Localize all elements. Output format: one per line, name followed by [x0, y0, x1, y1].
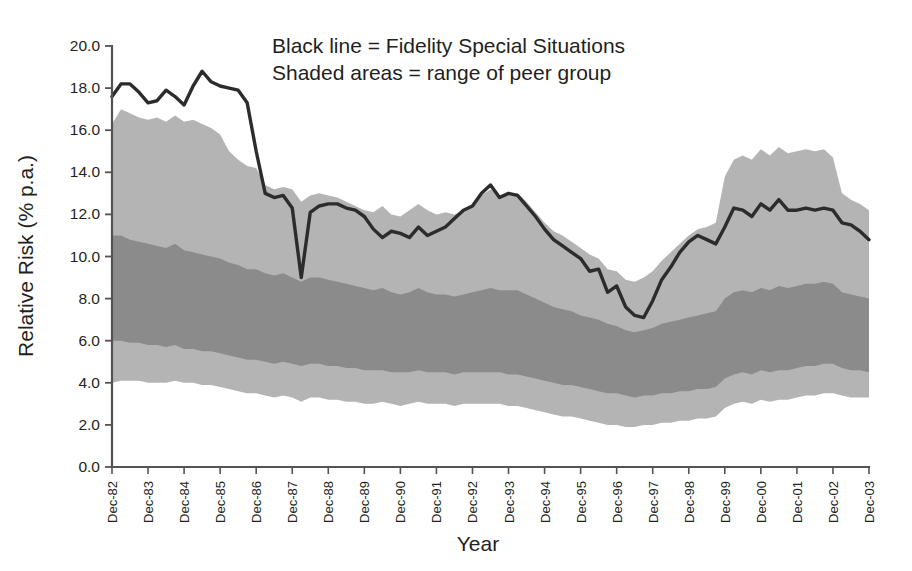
chart-legend: Black line = Fidelity Special Situations… — [272, 34, 625, 84]
y-tick-label: 2.0 — [78, 416, 100, 433]
x-tick-label: Dec-03 — [862, 481, 877, 523]
y-tick-label: 10.0 — [70, 248, 101, 265]
x-tick-label: Dec-91 — [429, 481, 444, 523]
x-tick-label: Dec-94 — [538, 481, 553, 523]
y-tick-label: 0.0 — [78, 458, 100, 475]
x-tick-label: Dec-88 — [321, 481, 336, 523]
x-tick-label: Dec-95 — [574, 481, 589, 523]
relative-risk-chart: 0.02.04.06.08.010.012.014.016.018.020.0 … — [0, 0, 912, 571]
x-tick-label: Dec-87 — [285, 481, 300, 523]
legend-band-label: Shaded areas = range of peer group — [272, 61, 611, 84]
legend-line-label: Black line = Fidelity Special Situations — [272, 34, 625, 57]
y-tick-label: 14.0 — [70, 163, 101, 180]
x-tick-label: Dec-90 — [393, 481, 408, 523]
x-tick-label: Dec-00 — [754, 481, 769, 523]
y-axis-tick-labels: 0.02.04.06.08.010.012.014.016.018.020.0 — [70, 37, 101, 475]
y-tick-label: 18.0 — [70, 79, 101, 96]
x-tick-label: Dec-99 — [718, 481, 733, 523]
y-tick-label: 12.0 — [70, 205, 101, 222]
y-tick-label: 16.0 — [70, 121, 101, 138]
x-tick-label: Dec-85 — [213, 481, 228, 523]
x-tick-label: Dec-86 — [249, 481, 264, 523]
y-axis-title: Relative Risk (% p.a.) — [14, 155, 37, 357]
x-tick-label: Dec-84 — [177, 481, 192, 523]
y-tick-label: 8.0 — [78, 290, 100, 307]
x-tick-label: Dec-01 — [790, 481, 805, 523]
x-tick-label: Dec-82 — [105, 481, 120, 523]
x-axis-title: Year — [457, 532, 499, 555]
x-tick-label: Dec-93 — [502, 481, 517, 523]
x-tick-label: Dec-83 — [141, 481, 156, 523]
peer-group-bands — [112, 109, 869, 427]
x-tick-label: Dec-96 — [610, 481, 625, 523]
y-tick-label: 6.0 — [78, 332, 100, 349]
x-tick-label: Dec-98 — [682, 481, 697, 523]
chart-container: 0.02.04.06.08.010.012.014.016.018.020.0 … — [0, 0, 912, 571]
x-tick-label: Dec-97 — [646, 481, 661, 523]
x-tick-label: Dec-89 — [357, 481, 372, 523]
y-tick-label: 4.0 — [78, 374, 100, 391]
x-tick-label: Dec-02 — [826, 481, 841, 523]
x-tick-label: Dec-92 — [465, 481, 480, 523]
x-axis-tick-labels: Dec-82Dec-83Dec-84Dec-85Dec-86Dec-87Dec-… — [105, 481, 877, 523]
y-tick-label: 20.0 — [70, 37, 101, 54]
